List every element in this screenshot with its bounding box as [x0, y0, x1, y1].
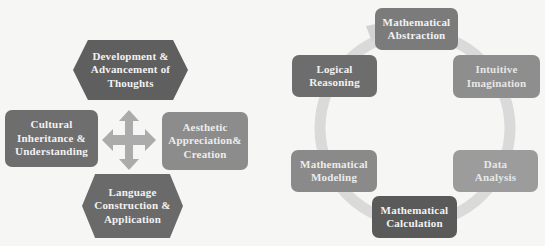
node-data-analysis: Data Analysis	[453, 150, 538, 192]
node-line: Construction &	[94, 199, 170, 213]
node-line: Cultural	[15, 118, 88, 132]
node-line: Logical	[309, 63, 360, 77]
node-line: Thoughts	[91, 77, 170, 91]
node-line: Appreciation&	[168, 134, 241, 148]
node-line: Creation	[168, 148, 241, 162]
node-line: Abstraction	[383, 29, 451, 43]
node-line: Modeling	[300, 171, 368, 185]
node-line: Advancement of	[91, 63, 170, 77]
node-cultural-inheritance-understanding: Cultural Inheritance & Understanding	[5, 110, 98, 167]
node-line: Intuitive	[467, 63, 527, 77]
node-intuitive-imagination: Intuitive Imagination	[453, 55, 540, 98]
node-line: Inheritance &	[15, 132, 88, 146]
node-line: Imagination	[467, 77, 527, 91]
node-line: Calculation	[381, 217, 449, 231]
node-line: Language	[94, 186, 170, 200]
node-line: Reasoning	[309, 76, 360, 90]
node-mathematical-modeling: Mathematical Modeling	[291, 150, 377, 192]
node-logical-reasoning: Logical Reasoning	[292, 55, 377, 97]
node-language-construction-application: Language Construction & Application	[82, 174, 183, 238]
node-line: Development &	[91, 50, 170, 64]
node-line: Analysis	[475, 171, 516, 185]
node-mathematical-calculation: Mathematical Calculation	[372, 196, 457, 238]
node-mathematical-abstraction: Mathematical Abstraction	[375, 8, 458, 50]
node-aesthetic-appreciation-creation: Aesthetic Appreciation& Creation	[162, 112, 248, 170]
node-line: Aesthetic	[168, 121, 241, 135]
node-line: Mathematical	[381, 204, 449, 218]
node-line: Data	[475, 158, 516, 172]
four-way-arrow-icon	[102, 110, 156, 170]
node-line: Mathematical	[300, 158, 368, 172]
node-line: Mathematical	[383, 16, 451, 30]
node-line: Understanding	[15, 145, 88, 159]
node-development-advancement-of-thoughts: Development & Advancement of Thoughts	[73, 40, 188, 100]
node-line: Application	[94, 213, 170, 227]
